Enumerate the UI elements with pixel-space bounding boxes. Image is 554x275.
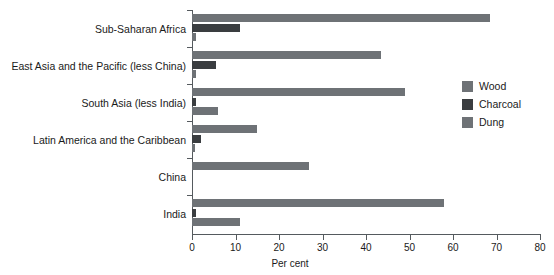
x-axis-tick bbox=[366, 235, 367, 240]
bar-wood bbox=[192, 14, 490, 22]
y-axis-tick bbox=[187, 195, 192, 196]
bar-charcoal bbox=[192, 135, 201, 143]
x-axis-title: Per cent bbox=[0, 258, 554, 269]
bar-chart: Sub-Saharan AfricaEast Asia and the Paci… bbox=[0, 0, 554, 275]
category-label: Sub-Saharan Africa bbox=[0, 23, 186, 35]
category-label: Latin America and the Caribbean bbox=[0, 134, 186, 146]
x-axis-tick bbox=[410, 235, 411, 240]
y-axis-tick bbox=[187, 84, 192, 85]
x-axis-tick-label: 40 bbox=[360, 242, 371, 253]
x-axis-tick bbox=[497, 235, 498, 240]
x-axis-tick bbox=[323, 235, 324, 240]
x-axis-tick bbox=[236, 235, 237, 240]
bar-dung bbox=[192, 33, 196, 41]
x-axis-tick bbox=[279, 235, 280, 240]
bar-charcoal bbox=[192, 61, 216, 69]
chart-legend: WoodCharcoalDung bbox=[462, 78, 521, 132]
bar-wood bbox=[192, 125, 257, 133]
legend-label: Wood bbox=[479, 80, 506, 92]
legend-item: Wood bbox=[462, 78, 521, 94]
x-axis-tick-label: 80 bbox=[534, 242, 545, 253]
legend-item: Dung bbox=[462, 114, 521, 130]
bar-group: China bbox=[192, 158, 540, 195]
legend-swatch-icon bbox=[462, 117, 473, 128]
category-label: East Asia and the Pacific (less China) bbox=[0, 60, 186, 72]
bar-dung bbox=[192, 218, 240, 226]
x-axis-title-label: Per cent bbox=[245, 258, 308, 269]
bar-dung bbox=[192, 144, 195, 152]
x-axis-tick-label: 0 bbox=[189, 242, 195, 253]
x-axis-tick-label: 70 bbox=[491, 242, 502, 253]
bar-charcoal bbox=[192, 98, 196, 106]
x-axis-tick bbox=[540, 235, 541, 240]
y-axis-tick bbox=[187, 47, 192, 48]
bar-charcoal bbox=[192, 24, 240, 32]
y-axis-tick bbox=[187, 10, 192, 11]
legend-label: Charcoal bbox=[479, 98, 521, 110]
x-axis-tick-label: 10 bbox=[230, 242, 241, 253]
legend-swatch-icon bbox=[462, 99, 473, 110]
bar-wood bbox=[192, 162, 309, 170]
y-axis-tick bbox=[187, 121, 192, 122]
bar-group: Sub-Saharan Africa bbox=[192, 10, 540, 47]
bar-dung bbox=[192, 107, 218, 115]
x-axis-tick-label: 30 bbox=[317, 242, 328, 253]
bar-wood bbox=[192, 88, 405, 96]
category-label: China bbox=[0, 171, 186, 183]
category-label: India bbox=[0, 208, 186, 220]
x-axis-tick bbox=[192, 235, 193, 240]
bar-dung bbox=[192, 70, 196, 78]
x-axis-tick bbox=[453, 235, 454, 240]
category-label: South Asia (less India) bbox=[0, 97, 186, 109]
x-axis-tick-label: 50 bbox=[404, 242, 415, 253]
legend-label: Dung bbox=[479, 116, 504, 128]
legend-swatch-icon bbox=[462, 81, 473, 92]
bar-group: India bbox=[192, 195, 540, 232]
y-axis-tick bbox=[187, 158, 192, 159]
x-axis-tick-label: 20 bbox=[273, 242, 284, 253]
bar-wood bbox=[192, 199, 444, 207]
bar-charcoal bbox=[192, 209, 196, 217]
bar-wood bbox=[192, 51, 381, 59]
legend-item: Charcoal bbox=[462, 96, 521, 112]
x-axis-tick-label: 60 bbox=[447, 242, 458, 253]
